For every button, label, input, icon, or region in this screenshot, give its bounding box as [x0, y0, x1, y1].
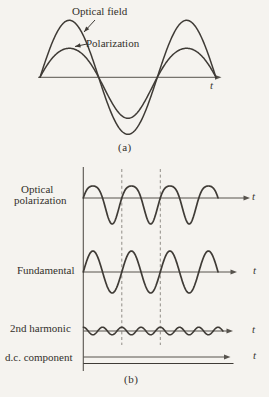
optical-field-label: Optical field [72, 5, 127, 17]
panel-a-caption: (a) [118, 141, 132, 153]
polarization-label: Polarization [86, 37, 139, 49]
row4-time-axis-label: t [253, 349, 256, 361]
textbook-figure: Optical field Polarization t (a) Optical… [0, 0, 269, 397]
dc-component-label: d.c. component [5, 351, 73, 363]
fundamental-label: Fundamental [17, 264, 74, 276]
panel-b-caption: (b) [124, 373, 138, 385]
optical-polarization-label-line2: polarization [14, 194, 67, 206]
row1-time-axis-label: t [252, 190, 255, 202]
row2-time-axis-label: t [253, 264, 256, 276]
second-harmonic-label: 2nd harmonic [10, 322, 71, 334]
panel-a-time-axis-label: t [210, 79, 213, 91]
row3-time-axis-label: t [252, 323, 255, 335]
